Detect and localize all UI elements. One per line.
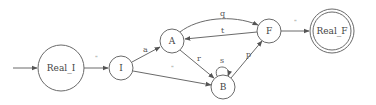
node-real-i: Real_I	[38, 45, 84, 91]
edge-label-f-to-real-f: "	[294, 18, 297, 25]
node-a: A	[160, 29, 184, 53]
node-label-a: A	[168, 36, 176, 46]
edge-label-f-to-a: t	[221, 26, 225, 35]
edge-label-a-to-b: r	[197, 54, 201, 63]
edge-label-b-to-b: s	[220, 56, 224, 65]
node-label-f: F	[266, 26, 272, 36]
node-label-i: I	[119, 63, 123, 73]
edge-label-a-to-f: q	[220, 9, 225, 18]
node-f: F	[257, 19, 281, 43]
edge-label-b-to-f: p	[246, 50, 251, 59]
node-i: I	[109, 56, 133, 80]
edge-i-to-b	[133, 71, 211, 85]
automaton-diagram: " a " q t r s p " Real_I I	[0, 0, 376, 105]
edge-label-i-to-b: "	[171, 64, 174, 71]
edge-label-i-to-a: a	[143, 45, 148, 54]
node-label-b: B	[220, 82, 227, 92]
edge-a-to-f	[180, 19, 258, 32]
edge-b-to-f	[231, 41, 262, 78]
node-real-f: Real_F	[310, 9, 354, 53]
node-label-real-i: Real_I	[47, 63, 76, 74]
diagram-svg: " a " q t r s p " Real_I I	[0, 0, 376, 105]
node-b: B	[211, 75, 235, 99]
edge-label-real-i-to-i: "	[95, 54, 98, 61]
node-label-real-f: Real_F	[316, 26, 347, 37]
